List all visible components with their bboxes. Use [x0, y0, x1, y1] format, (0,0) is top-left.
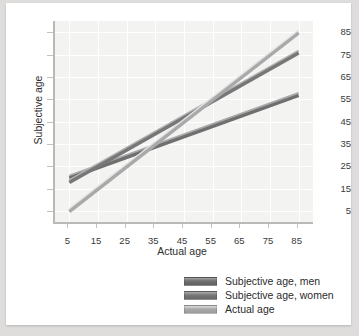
chart-card: Subjective age 51525354555657585 5152535… — [6, 3, 351, 325]
x-axis-tick-label: 15 — [81, 236, 111, 245]
y-axis-tick-label: 35 — [317, 139, 351, 148]
x-axis-tick-label: 55 — [196, 236, 226, 245]
legend-swatch — [184, 277, 217, 286]
x-axis-tick — [239, 224, 240, 228]
chart-legend: Subjective age, menSubjective age, women… — [184, 275, 334, 316]
legend-swatch — [184, 305, 217, 314]
plot-wrapper: Subjective age 51525354555657585 5152535… — [6, 3, 351, 253]
series-lines — [55, 21, 313, 222]
y-axis-tick-label: 85 — [317, 27, 351, 36]
y-axis-tick-label: 75 — [317, 50, 351, 59]
x-axis-tick — [67, 224, 68, 228]
x-axis-tick-label: 45 — [167, 236, 197, 245]
legend-label: Subjective age, men — [225, 276, 320, 287]
x-axis-tick-label: 85 — [282, 236, 312, 245]
y-axis-tick-label: 25 — [317, 161, 351, 170]
y-axis-tick-label: 5 — [317, 206, 351, 215]
x-axis-tick-label: 35 — [138, 236, 168, 245]
x-axis-tick — [297, 224, 298, 228]
x-axis-tick-label: 25 — [110, 236, 140, 245]
plot-area — [53, 21, 313, 224]
x-axis-tick — [125, 224, 126, 228]
series-line — [69, 51, 298, 183]
series-line — [69, 31, 298, 212]
x-axis-title: Actual age — [53, 245, 311, 257]
x-axis-tick — [182, 224, 183, 228]
series-line — [69, 93, 298, 178]
y-axis-title: Subjective age — [32, 55, 44, 165]
x-axis-tick-label: 75 — [253, 236, 283, 245]
legend-label: Subjective age, women — [225, 290, 334, 301]
legend-label: Actual age — [225, 304, 275, 315]
y-axis-tick-label: 55 — [317, 94, 351, 103]
y-axis-tick-label: 45 — [317, 117, 351, 126]
x-axis-tick — [153, 224, 154, 228]
legend-swatch — [184, 291, 217, 300]
x-axis-tick — [211, 224, 212, 228]
y-axis-tick-label: 65 — [317, 72, 351, 81]
x-axis-tick — [96, 224, 97, 228]
x-axis-tick — [268, 224, 269, 228]
legend-item: Subjective age, men — [184, 275, 334, 288]
x-axis-tick-label: 5 — [52, 236, 82, 245]
x-axis-tick-label: 65 — [224, 236, 254, 245]
legend-item: Actual age — [184, 303, 334, 316]
y-axis-tick-label: 15 — [317, 184, 351, 193]
legend-item: Subjective age, women — [184, 289, 334, 302]
